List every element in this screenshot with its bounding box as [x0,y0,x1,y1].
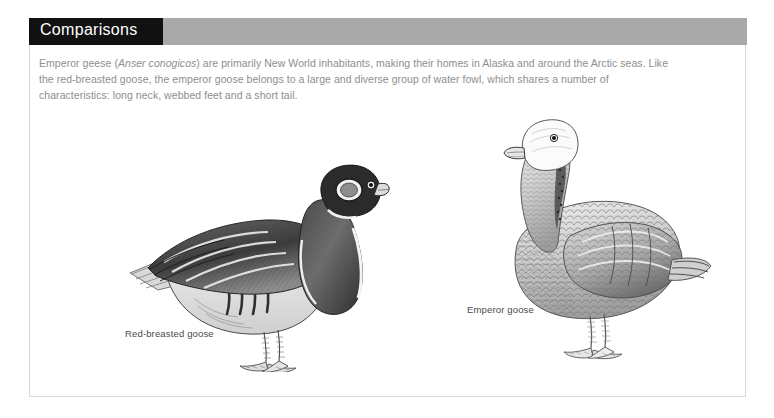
figure-emperor-goose [462,100,712,362]
page-title: Comparisons [40,21,138,39]
body-paragraph: Emperor geese (Anser conogicos) are prim… [39,55,679,104]
emperor-goose-illustration [462,100,712,362]
species-name: Anser conogicos [118,57,196,69]
page-root: Comparisons Emperor geese (Anser conogic… [0,0,774,418]
figure-caption-emperor-goose: Emperor goose [467,304,534,315]
paragraph-part-1: Emperor geese ( [39,57,118,69]
section-header-band: Comparisons [29,18,747,45]
figure-caption-red-breasted-goose: Red-breasted goose [125,328,214,339]
